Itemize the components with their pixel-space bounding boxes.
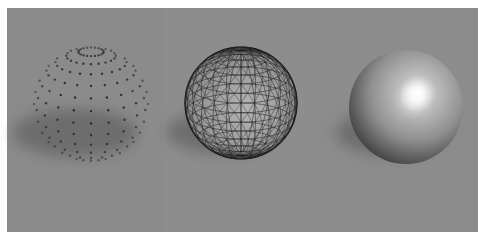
wireframe-sphere — [185, 47, 297, 159]
sphere-renderings — [0, 0, 486, 240]
shaded-sphere — [349, 50, 463, 164]
